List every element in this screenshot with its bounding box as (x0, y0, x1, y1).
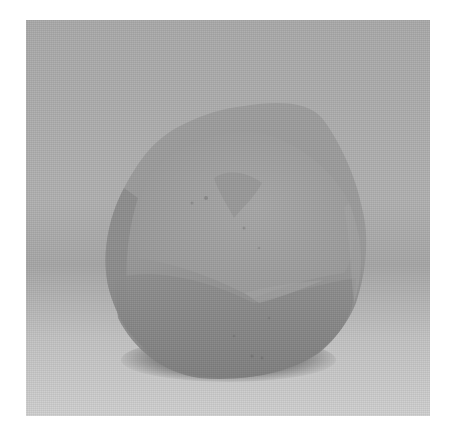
clay-ball-shape (94, 88, 382, 388)
clay-ball (94, 88, 382, 388)
photograph (26, 20, 430, 416)
